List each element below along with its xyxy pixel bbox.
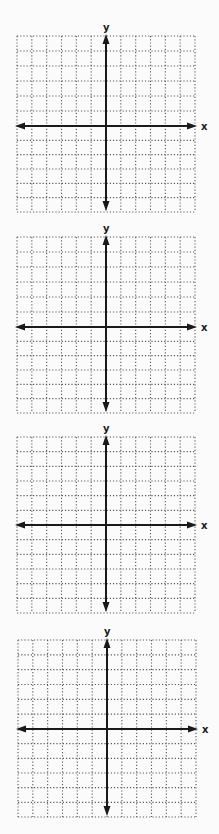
coordinate-plane-1: xy <box>15 22 208 212</box>
y-axis-down-arrow-icon <box>103 602 110 612</box>
y-axis-label: y <box>103 223 110 234</box>
y-axis-label: y <box>103 22 110 33</box>
y-axis <box>103 435 110 612</box>
worksheet-canvas: xyxyxyxy <box>0 0 219 834</box>
y-axis-down-arrow-icon <box>103 402 110 412</box>
y-axis <box>103 235 110 412</box>
coordinate-plane-4: xy <box>16 626 209 817</box>
y-axis <box>104 638 111 816</box>
coordinate-plane-3: xy <box>15 423 208 613</box>
y-axis-down-arrow-icon <box>104 806 111 816</box>
x-axis-label: x <box>201 322 208 333</box>
y-axis-down-arrow-icon <box>103 201 110 211</box>
y-axis-label: y <box>104 626 111 637</box>
x-axis-label: x <box>201 520 208 531</box>
x-axis-label: x <box>201 121 208 132</box>
coordinate-plane-2: xy <box>15 223 208 413</box>
y-axis-label: y <box>103 423 110 434</box>
y-axis <box>103 34 110 211</box>
x-axis-label: x <box>202 724 209 735</box>
